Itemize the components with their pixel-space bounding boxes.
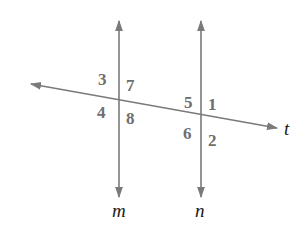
line-t-label: t	[284, 118, 290, 139]
angle-1-label: 1	[208, 95, 217, 114]
angle-2-label: 2	[208, 131, 217, 150]
transversal-t	[31, 84, 277, 128]
angle-6-label: 6	[183, 124, 192, 143]
angle-4-label: 4	[97, 103, 106, 122]
line-m-label: m	[112, 200, 126, 221]
angle-5-label: 5	[184, 93, 193, 112]
line-n-label: n	[195, 200, 205, 221]
angle-7-label: 7	[126, 76, 135, 95]
angle-3-label: 3	[98, 70, 107, 89]
angle-8-label: 8	[126, 109, 135, 128]
parallel-lines-transversal-diagram: 3 7 4 8 5 1 6 2 m n t	[0, 0, 307, 227]
